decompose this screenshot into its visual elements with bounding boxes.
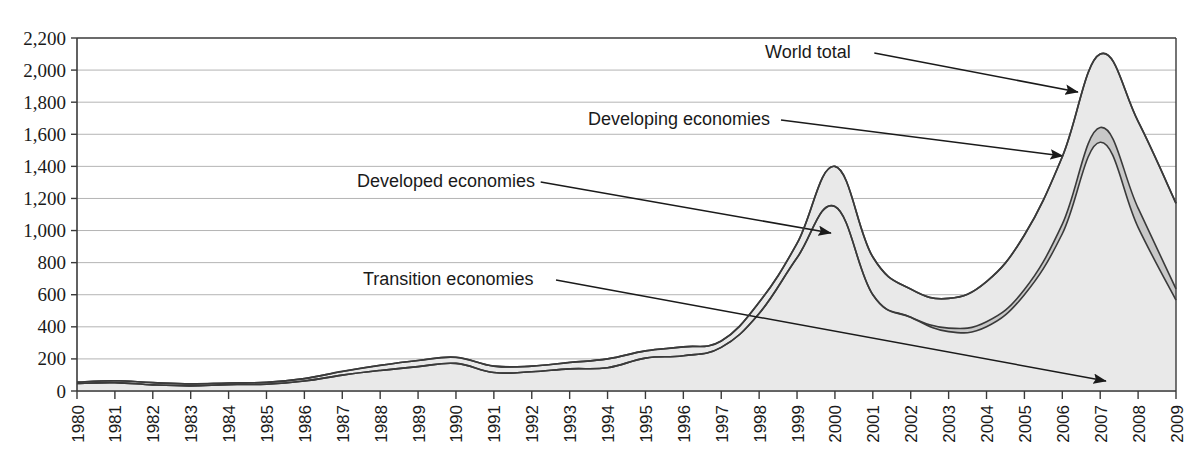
annotation-label-2: Developed economies xyxy=(357,171,535,191)
x-tick-label-1987: 1987 xyxy=(334,405,353,443)
y-tick-label-1200: 1,200 xyxy=(23,188,66,209)
y-tick-label-2200: 2,200 xyxy=(23,28,66,49)
x-tick-label-1998: 1998 xyxy=(751,405,770,443)
y-tick-label-1400: 1,400 xyxy=(23,156,66,177)
x-tick-label-1995: 1995 xyxy=(637,405,656,443)
x-tick-label-1993: 1993 xyxy=(561,405,580,443)
x-tick-label-1991: 1991 xyxy=(485,405,504,443)
x-tick-label-1992: 1992 xyxy=(523,405,542,443)
x-tick-label-2007: 2007 xyxy=(1092,405,1111,443)
x-tick-label-1986: 1986 xyxy=(296,405,315,443)
chart-container: 02004006008001,0001,2001,4001,6001,8002,… xyxy=(0,0,1199,467)
x-tick-label-2003: 2003 xyxy=(940,405,959,443)
y-tick-label-200: 200 xyxy=(38,348,67,369)
y-tick-label-800: 800 xyxy=(38,252,67,273)
x-tick-label-1997: 1997 xyxy=(713,405,732,443)
y-tick-label-1800: 1,800 xyxy=(23,92,66,113)
y-tick-label-1600: 1,600 xyxy=(23,124,66,145)
x-tick-label-2004: 2004 xyxy=(978,405,997,443)
x-tick-label-1985: 1985 xyxy=(258,405,277,443)
y-axis: 02004006008001,0001,2001,4001,6001,8002,… xyxy=(23,28,77,402)
x-axis: 1980198119821983198419851986198719881989… xyxy=(69,391,1187,443)
x-tick-label-1983: 1983 xyxy=(182,405,201,443)
y-tick-label-1000: 1,000 xyxy=(23,220,66,241)
x-tick-label-1990: 1990 xyxy=(447,405,466,443)
annotation-label-3: Transition economies xyxy=(363,269,533,289)
y-tick-label-400: 400 xyxy=(38,316,67,337)
annotation-label-0: World total xyxy=(765,42,851,62)
x-tick-label-2006: 2006 xyxy=(1054,405,1073,443)
y-tick-label-0: 0 xyxy=(57,381,67,402)
x-tick-label-1980: 1980 xyxy=(69,405,88,443)
x-tick-label-2001: 2001 xyxy=(864,405,883,443)
fdi-stacked-area-chart: 02004006008001,0001,2001,4001,6001,8002,… xyxy=(0,0,1199,467)
x-tick-label-1999: 1999 xyxy=(789,405,808,443)
x-tick-label-2005: 2005 xyxy=(1016,405,1035,443)
annotation-label-1: Developing economies xyxy=(588,109,770,129)
x-tick-label-2009: 2009 xyxy=(1168,405,1187,443)
x-tick-label-1981: 1981 xyxy=(106,405,125,443)
x-tick-label-1994: 1994 xyxy=(599,405,618,443)
x-tick-label-1982: 1982 xyxy=(144,405,163,443)
x-tick-label-1988: 1988 xyxy=(372,405,391,443)
x-tick-label-2000: 2000 xyxy=(826,405,845,443)
x-tick-label-1984: 1984 xyxy=(220,405,239,443)
x-tick-label-2002: 2002 xyxy=(902,405,921,443)
x-tick-label-2008: 2008 xyxy=(1130,405,1149,443)
y-tick-label-600: 600 xyxy=(38,284,67,305)
x-tick-label-1996: 1996 xyxy=(675,405,694,443)
x-tick-label-1989: 1989 xyxy=(410,405,429,443)
y-tick-label-2000: 2,000 xyxy=(23,60,66,81)
